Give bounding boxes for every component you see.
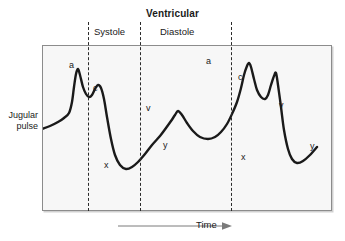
wave-label-x1: x [104,160,109,170]
y-axis-label-line2: pulse [0,121,38,132]
divider-diastole-end [231,22,232,211]
wave-label-x2: x [241,152,246,162]
systole-label: Systole [94,26,125,37]
waveform-svg [43,46,331,210]
wave-label-c1: c [93,83,98,93]
time-axis-label: Time [196,219,217,230]
wave-label-c2: c [238,72,243,82]
wave-label-v1: v [146,103,151,113]
jugular-pulse-curve [43,63,317,169]
wave-label-a2: a [206,56,211,66]
time-arrow-icon [118,219,238,233]
wave-label-y2: y [310,141,315,151]
ventricular-title: Ventricular [0,8,345,19]
y-axis-label: Jugular pulse [0,110,38,132]
wave-label-a1: a [69,60,74,70]
jugular-pulse-figure: Ventricular Systole Diastole Jugular pul… [0,0,345,241]
wave-label-v2: v [279,100,284,110]
divider-systole-start [88,22,89,211]
plot-area [42,45,332,211]
y-axis-label-line1: Jugular [0,110,38,121]
diastole-label: Diastole [160,26,194,37]
wave-label-y1: y [163,140,168,150]
divider-systole-end [140,22,141,211]
